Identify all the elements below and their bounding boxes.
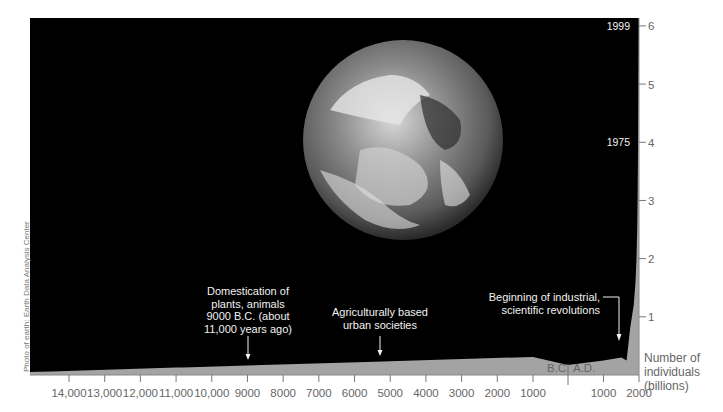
x-tick-label: 14,000	[51, 387, 86, 399]
x-tick-label: 13,000	[87, 387, 122, 399]
x-tick-label: 1000	[520, 387, 546, 399]
photo-credit: Photo of earth: Earth Data Analysis Cent…	[22, 221, 31, 372]
x-tick-label: 8000	[270, 387, 296, 399]
x-tick-label: 4000	[413, 387, 439, 399]
x-tick-label: 11,000	[159, 387, 193, 399]
y-tick-label: 3	[648, 195, 654, 207]
y-tick-label: 5	[648, 79, 654, 91]
x-tick-label: 1000	[591, 387, 617, 399]
era-label-bc: B.C.	[547, 362, 569, 374]
y-tick-label: 2	[648, 253, 654, 265]
x-tick-label: 6000	[342, 387, 368, 399]
x-tick-label: 2000	[485, 387, 511, 399]
annotation-text: Agriculturally basedurban societies	[332, 306, 428, 331]
y-axis: 123456	[639, 18, 655, 375]
x-tick-label: 7000	[306, 387, 332, 399]
y-axis-label-line: individuals	[644, 365, 700, 379]
y-axis-label: Number of individuals (billions)	[644, 351, 703, 393]
earth-photo	[303, 40, 503, 240]
y-tick-label: 6	[648, 20, 654, 32]
x-tick-label: 5000	[377, 387, 403, 399]
annotation-text: Domestication ofplants, animals9000 B.C.…	[204, 285, 292, 335]
annotation-text: 1975	[607, 136, 631, 148]
era-label-ad: A.D.	[573, 362, 595, 374]
x-tick-label: 12,000	[123, 387, 158, 399]
annotation-text: 1999	[607, 20, 631, 32]
y-axis-label-line: Number of	[644, 351, 701, 365]
population-chart: 14,00013,00012,00011,00010,0009000800070…	[0, 0, 723, 412]
y-axis-label-line: (billions)	[644, 379, 689, 393]
x-axis: 14,00013,00012,00011,00010,0009000800070…	[30, 375, 652, 399]
x-tick-label: 9000	[235, 387, 261, 399]
y-tick-label: 4	[648, 137, 655, 149]
x-tick-label: 3000	[449, 387, 475, 399]
y-tick-label: 1	[648, 311, 654, 323]
annotation-text: Beginning of industrial,scientific revol…	[489, 291, 601, 316]
x-tick-label: 10,000	[194, 387, 229, 399]
